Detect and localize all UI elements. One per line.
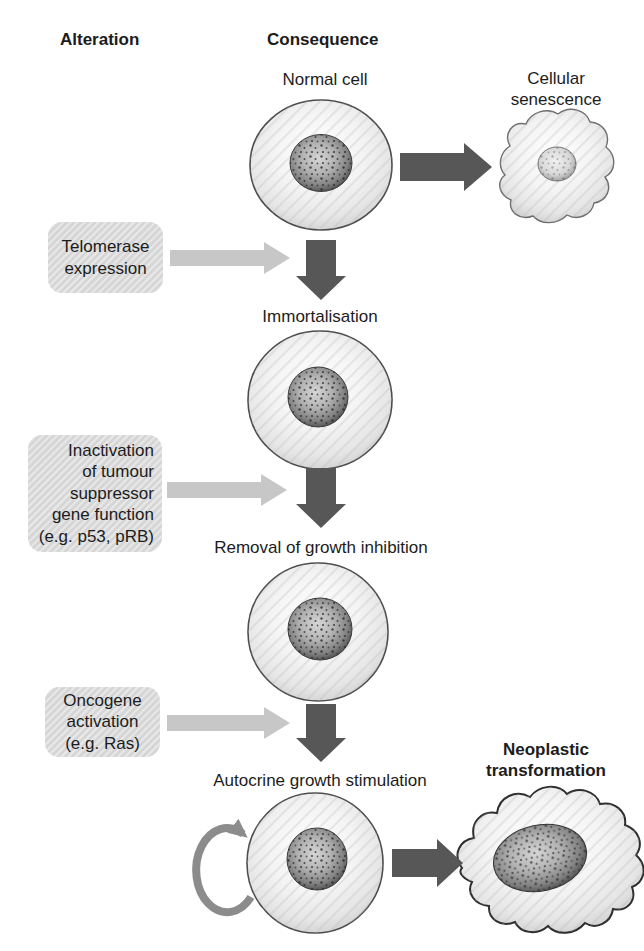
figure-canvas: Alteration Consequence Normal cell Cellu… bbox=[0, 0, 644, 951]
oncogene-activation-box: Oncogene activation (e.g. Ras) bbox=[45, 687, 160, 757]
alteration-column-header: Alteration bbox=[60, 29, 139, 50]
tumour-suppressor-arrow-icon bbox=[167, 474, 287, 506]
autocrine-loop-arrow-icon bbox=[196, 828, 251, 912]
cellular-senescence-label: Cellular senescence bbox=[511, 68, 602, 110]
down-arrow-immortalisation-icon bbox=[296, 240, 346, 300]
senescent-cell-graphic bbox=[500, 109, 614, 222]
removal-growth-inhibition-label: Removal of growth inhibition bbox=[214, 537, 428, 558]
autocrine-growth-label: Autocrine growth stimulation bbox=[213, 770, 427, 791]
immortalised-cell-graphic bbox=[248, 331, 392, 469]
growth-inhibition-cell-nucleus bbox=[288, 598, 352, 660]
oncogene-arrow-icon bbox=[167, 707, 290, 739]
normal-cell-graphic bbox=[250, 100, 392, 230]
tumour-suppressor-box: Inactivation of tumour suppressor gene f… bbox=[28, 435, 162, 552]
consequence-column-header: Consequence bbox=[267, 29, 378, 50]
growth-inhibition-cell-graphic bbox=[248, 563, 388, 701]
immortalisation-label: Immortalisation bbox=[262, 306, 377, 327]
down-arrow-growth-inhibition-icon bbox=[296, 468, 346, 528]
neoplastic-right-arrow-icon bbox=[392, 839, 463, 887]
down-arrow-autocrine-icon bbox=[296, 704, 346, 762]
immortalised-cell-nucleus bbox=[288, 367, 348, 427]
autocrine-cell-graphic bbox=[247, 793, 383, 933]
senescence-right-arrow-icon bbox=[400, 143, 492, 191]
telomerase-arrow-icon bbox=[170, 242, 290, 274]
autocrine-cell-nucleus bbox=[287, 828, 347, 890]
normal-cell-nucleus bbox=[290, 135, 352, 192]
neoplastic-transformation-label: Neoplastic transformation bbox=[486, 739, 606, 781]
neoplastic-cell-graphic bbox=[458, 787, 644, 933]
senescent-cell-nucleus bbox=[538, 147, 576, 181]
normal-cell-label: Normal cell bbox=[282, 69, 367, 90]
telomerase-expression-box: Telomerase expression bbox=[48, 222, 163, 293]
